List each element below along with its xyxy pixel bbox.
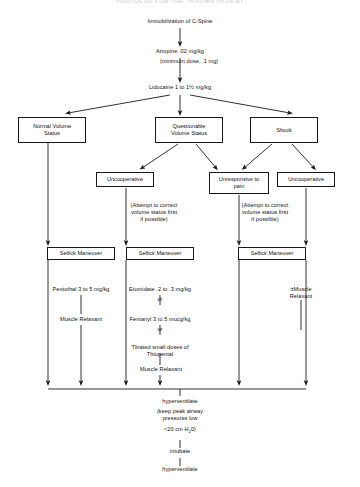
box-uncooperative-right-label: Uncooperative <box>288 176 324 183</box>
box-normal-volume-status: Normal Volume Status <box>18 117 86 143</box>
node-etomidate: Etomidate .2 to .3 mg/kg <box>104 286 216 293</box>
node-muscle-relaxant-right: ±Muscle Relaxant <box>271 286 331 300</box>
node-or-1: or <box>140 296 180 303</box>
node-fentanyl: Fentanyl 3 to 5 mucg/kg <box>104 316 216 323</box>
box-sellick-maneuver-2-label: Sellick Maneuver <box>139 250 182 257</box>
box-shock: Shock <box>250 117 318 143</box>
box-uncooperative-left-label: Uncooperative <box>107 176 143 183</box>
pressure-prefix: <20 cm H <box>164 426 189 432</box>
node-or-2: or <box>140 326 180 333</box>
node-pressure-limit: <20 cm H20) <box>130 426 230 435</box>
node-intubate: intubate <box>145 448 215 455</box>
node-lidocaine: Lidocaine 1 to 1½ mg/kg <box>122 84 238 91</box>
box-uncooperative-right: Uncooperative <box>277 172 335 187</box>
node-muscle-relaxant-middle: Muscle Relaxant <box>116 366 206 373</box>
node-hyperventilate-2: hyperventilate <box>135 466 225 473</box>
node-atropine-min-dose: (minimum dose, .1 mg) <box>160 58 280 65</box>
box-unresponsive-to-pain: Unresponsive to pain <box>209 172 269 194</box>
node-atropine: Atropine .02 mg/kg <box>128 48 232 55</box>
box-sellick-maneuver-3: Sellick Maneuver <box>238 247 306 260</box>
box-shock-label: Shock <box>276 127 292 134</box>
box-questionable-volume-status: Questionable Volume Status <box>155 117 223 143</box>
box-unresponsive-to-pain-label: Unresponsive to pain <box>219 176 259 190</box>
pressure-suffix: 0) <box>191 426 196 432</box>
note-attempt-correct-right: (Attempt to correct volume status first … <box>224 202 306 224</box>
box-sellick-maneuver-1: Sellick Maneuver <box>47 247 115 260</box>
note-attempt-correct-middle: (Attempt to correct volume status first … <box>113 202 195 224</box>
node-titrated-thiopental: Titrated small doses of Thiopental <box>108 344 212 358</box>
node-hyperventilate-1: hyperventilate <box>135 398 225 405</box>
box-sellick-maneuver-2: Sellick Maneuver <box>126 247 194 260</box>
box-sellick-maneuver-1-label: Sellick Maneuver <box>60 250 103 257</box>
flowchart-canvas: PROTOCOL FOR THE TRAUMA PATIENT <box>0 0 360 487</box>
box-sellick-maneuver-3-label: Sellick Maneuver <box>251 250 294 257</box>
box-uncooperative-left: Uncooperative <box>96 172 154 187</box>
node-immobilization: Immobilization of C-Spine <box>120 18 240 25</box>
node-keep-peak-airway: (keep peak airway pressures low <box>130 408 230 422</box>
box-normal-volume-status-label: Normal Volume Status <box>33 123 71 137</box>
box-questionable-volume-status-label: Questionable Volume Status <box>171 123 207 137</box>
